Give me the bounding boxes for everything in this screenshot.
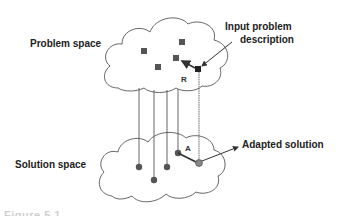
cbr-diagram: R Input problem description Problem spac… (0, 0, 341, 216)
adapted-solution-label: Adapted solution (242, 139, 324, 150)
solution-case-dot (136, 164, 142, 170)
adapted-pointer-arrow (202, 147, 238, 161)
solution-case-dot (151, 177, 157, 183)
solution-case-dot (164, 164, 170, 170)
adapt-arrow (178, 153, 196, 162)
retrieve-arrow (182, 61, 195, 68)
problem-space-cloud (104, 18, 227, 93)
input-problem-square (195, 66, 201, 72)
problem-case-square (179, 39, 185, 45)
adapted-solution-dot (196, 160, 203, 167)
retrieve-label: R (181, 75, 187, 84)
problem-case-square (173, 55, 179, 61)
adapt-label: A (185, 144, 191, 153)
input-problem-label-line2: description (240, 34, 294, 45)
problem-case-square (141, 48, 147, 54)
input-problem-label-line1: Input problem (225, 21, 292, 32)
problem-space-label: Problem space (30, 38, 102, 49)
problem-case-square (155, 64, 161, 70)
figure-caption: Figure 5.1 (4, 209, 61, 216)
solution-space-label: Solution space (15, 159, 87, 170)
solution-space-cloud (99, 132, 225, 201)
